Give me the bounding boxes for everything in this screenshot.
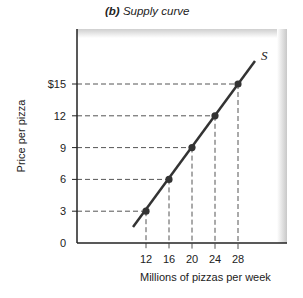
x-tick-label: 12 xyxy=(140,253,152,265)
panel-right-shade xyxy=(277,29,287,243)
curve-label-s: S xyxy=(261,48,268,63)
y-axis-label: Price per pizza xyxy=(15,91,27,181)
panel-top-shade xyxy=(77,29,287,38)
x-axis-ticks: 1216202428 xyxy=(140,253,244,265)
data-point xyxy=(142,208,149,215)
data-point xyxy=(165,176,172,183)
x-tick-label: 16 xyxy=(163,253,175,265)
y-axis-ticks: 036912$15 xyxy=(48,78,77,249)
x-tick-label: 20 xyxy=(186,253,198,265)
y-tick-label: 12 xyxy=(54,110,66,122)
y-tick-label: 9 xyxy=(60,142,66,154)
y-tick-label: $15 xyxy=(48,78,66,90)
dashed-guides xyxy=(77,84,238,249)
x-axis-label: Millions of pizzas per week xyxy=(140,271,271,283)
chart-plot: 036912$15 1216202428 S xyxy=(0,0,303,298)
x-tick-label: 24 xyxy=(209,253,221,265)
data-point xyxy=(211,112,218,119)
x-tick-label: 28 xyxy=(232,253,244,265)
y-tick-label: 6 xyxy=(60,173,66,185)
data-point xyxy=(188,144,195,151)
y-tick-label: 3 xyxy=(60,205,66,217)
y-tick-label: 0 xyxy=(60,237,66,249)
data-point xyxy=(234,80,241,87)
